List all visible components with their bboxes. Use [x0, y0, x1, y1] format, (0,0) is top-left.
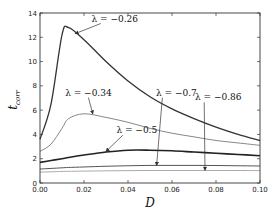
annotation-label: λ = −0.7 [156, 88, 197, 98]
y-tick-label: 10 [28, 58, 37, 66]
y-axis-label: tcorr [6, 90, 22, 110]
line-chart: λ = −0.26λ = −0.34λ = −0.5λ = −0.7λ = −0… [0, 0, 277, 212]
x-axis-ticks: 0.000.020.040.060.080.10 [32, 13, 268, 194]
x-tick-label: 0.08 [208, 186, 224, 194]
annotation-arrow [88, 98, 92, 114]
y-tick-label: 12 [28, 34, 37, 42]
series-line-2 [40, 150, 260, 162]
annotation-arrow [106, 135, 123, 151]
svg-text:tcorr: tcorr [6, 90, 22, 110]
series-line-3 [40, 165, 260, 169]
annotation-arrow [75, 24, 101, 34]
annotation-label: λ = −0.86 [195, 92, 242, 102]
x-tick-label: 0.10 [252, 186, 268, 194]
x-tick-label: 0.04 [120, 186, 136, 194]
series-line-4 [40, 170, 260, 172]
y-tick-label: 4 [33, 131, 38, 139]
series-line-0 [40, 26, 260, 140]
y-tick-label: 0 [33, 180, 37, 188]
x-tick-label: 0.06 [164, 186, 180, 194]
y-tick-label: 6 [33, 107, 38, 115]
annotation-label: λ = −0.26 [92, 14, 139, 24]
annotation-arrow [204, 102, 205, 170]
annotations: λ = −0.26λ = −0.34λ = −0.5λ = −0.7λ = −0… [65, 14, 242, 171]
x-axis-label: D [144, 196, 155, 210]
y-tick-label: 8 [33, 82, 37, 90]
x-tick-label: 0.02 [76, 186, 92, 194]
y-tick-label: 14 [28, 10, 37, 18]
y-tick-label: 2 [33, 155, 37, 163]
annotation-label: λ = −0.5 [116, 125, 157, 135]
annotation-label: λ = −0.34 [65, 88, 112, 98]
